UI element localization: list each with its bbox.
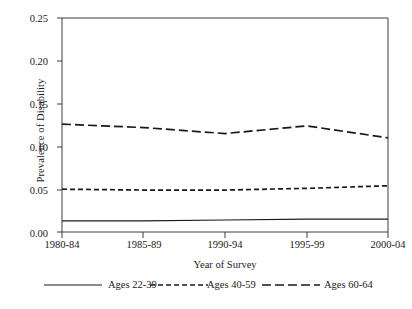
plot-area (0, 0, 412, 309)
legend-label-ages-40-59: Ages 40-59 (207, 279, 256, 291)
legend-label-ages-22-39: Ages 22-39 (108, 279, 157, 291)
y-axis-ticks (57, 18, 62, 232)
series-line-ages-60-64 (62, 124, 388, 138)
x-axis-ticks (62, 232, 388, 238)
series-line-ages-22-39 (62, 219, 388, 221)
axis-spines (62, 18, 388, 232)
legend-label-ages-60-64: Ages 60-64 (324, 279, 373, 291)
disability-prevalence-chart: Prevalence of Disability 0.25 0.20 0.15 … (0, 0, 412, 309)
series-layer (62, 124, 388, 221)
series-line-ages-40-59 (62, 186, 388, 190)
